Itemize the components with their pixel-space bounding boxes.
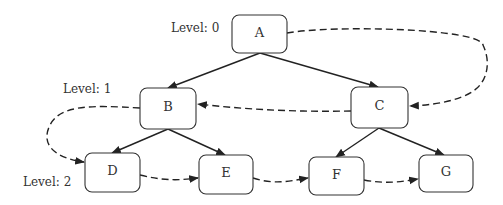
node-g: G — [419, 155, 473, 192]
level-label-1: Level: 1 — [63, 82, 111, 96]
node-c: C — [351, 87, 408, 128]
node-label: B — [163, 99, 173, 114]
tree-edge-a-b — [168, 53, 260, 88]
traversal-edge-e-f — [253, 178, 308, 182]
traversal-edge-d-e — [140, 175, 198, 180]
node-label: E — [221, 165, 231, 180]
traversal-edge-c-b — [198, 104, 351, 111]
node-f: F — [309, 157, 364, 195]
node-label: D — [107, 163, 117, 178]
node-label: G — [441, 164, 451, 179]
node-b: B — [140, 88, 196, 129]
tree-edge-c-f — [336, 128, 379, 157]
tree-edge-b-e — [168, 129, 225, 155]
tree-edge-a-c — [260, 53, 378, 87]
node-e: E — [199, 155, 253, 194]
traversal-edge-f-g — [364, 179, 418, 182]
tree-diagram: Level: 0 Level: 1 Level: 2 ABCDEFG — [0, 0, 503, 205]
level-label-2: Level: 2 — [23, 175, 71, 189]
node-label: A — [254, 25, 265, 40]
node-d: D — [85, 153, 140, 192]
tree-edge-c-g — [379, 128, 444, 155]
node-label: F — [332, 167, 341, 182]
node-a: A — [232, 15, 287, 53]
level-label-0: Level: 0 — [171, 21, 219, 35]
node-label: C — [375, 98, 385, 113]
tree-edge-b-d — [112, 129, 168, 153]
nodes: ABCDEFG — [85, 15, 473, 195]
